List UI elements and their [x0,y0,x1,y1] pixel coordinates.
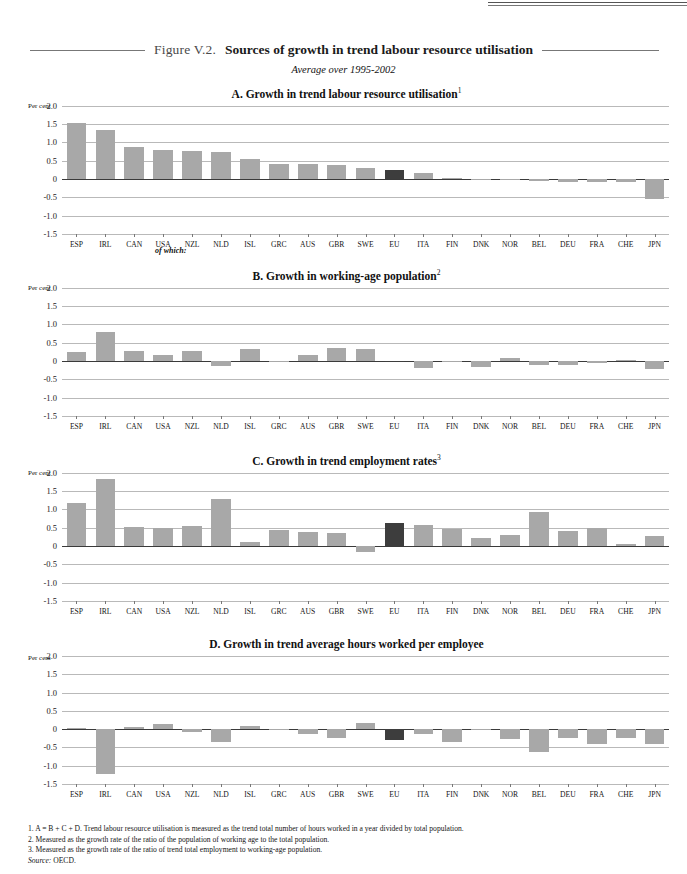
x-tick [91,601,120,605]
bar-cell [438,288,467,416]
x-label-irl: IRL [91,240,120,249]
x-tick [525,784,554,788]
y-tick-label: -0.5 [44,742,57,752]
x-tick [264,601,293,605]
bar-jpn [645,536,665,546]
x-label-che: CHE [611,422,640,431]
x-tick [120,416,149,420]
bar-cell [207,288,236,416]
x-tick [178,784,207,788]
x-label-swe: SWE [351,422,380,431]
bar-cell [467,106,496,234]
x-label-irl: IRL [91,607,120,616]
bar-grc [269,530,289,546]
bar-cell [207,106,236,234]
bar-che [616,179,636,182]
y-tick-label: 2.0 [46,468,57,478]
x-label-dnk: DNK [467,607,496,616]
x-tick [178,416,207,420]
panel-title-d: D. Growth in trend average hours worked … [0,638,687,650]
x-tick [178,234,207,238]
panel-footnote-marker: 2 [437,268,441,277]
x-label-che: CHE [611,790,640,799]
bar-cell [351,106,380,234]
x-label-usa: USA [149,422,178,431]
bar-cell [351,656,380,784]
x-label-fra: FRA [582,240,611,249]
x-label-deu: DEU [553,240,582,249]
y-tick-label: 0.5 [46,338,57,348]
footnote-3: 3. Measured as the growth rate of the ra… [28,845,663,856]
bar-cell [62,106,91,234]
x-tick [525,416,554,420]
x-tick [293,234,322,238]
y-tick-label: 0.5 [46,156,57,166]
source-label: Source: [28,856,51,865]
bar-cell [235,656,264,784]
x-tick-marks [62,234,669,238]
x-tick [149,601,178,605]
x-tick-marks [62,416,669,420]
bar-cell [322,106,351,234]
x-tick [207,784,236,788]
bar-cell [149,656,178,784]
plot-area-d: 2.01.51.00.50-0.5-1.0-1.5ESPIRLCANUSANZL… [62,656,669,784]
chart-panel-a: A. Growth in trend labour resource utili… [0,86,687,234]
bar-esp [67,503,87,546]
bar-cell [611,473,640,601]
bar-fra [587,528,607,546]
bar-cell [582,473,611,601]
bar-cell [640,106,669,234]
bar-cell [409,473,438,601]
x-label-eu: EU [380,240,409,249]
bar-group [62,106,669,234]
y-tick-label: -1.0 [44,761,57,771]
bar-cell [149,288,178,416]
source-value: OECD. [53,856,76,865]
bar-cell [91,288,120,416]
x-tick [553,416,582,420]
bar-cell [264,288,293,416]
bar-grc [269,729,289,730]
x-label-fin: FIN [438,422,467,431]
figure-title: Sources of growth in trend labour resour… [225,42,533,58]
bar-bel [529,179,549,181]
x-axis-labels: ESPIRLCANUSANZLNLDISLGRCAUSGBRSWEEUITAFI… [62,422,669,431]
x-label-che: CHE [611,240,640,249]
bar-dnk [471,538,491,546]
x-label-irl: IRL [91,422,120,431]
x-tick [264,416,293,420]
x-label-gbr: GBR [322,422,351,431]
bar-nor [500,179,520,180]
chart-panel-c: C. Growth in trend employment rates3Per … [0,453,687,601]
bar-cell [467,656,496,784]
bar-nor [500,535,520,546]
bar-cell [322,473,351,601]
x-label-irl: IRL [91,790,120,799]
x-label-nor: NOR [496,240,525,249]
bar-cell [120,473,149,601]
x-tick [467,234,496,238]
x-tick [62,784,91,788]
x-tick [467,784,496,788]
x-tick [322,601,351,605]
y-tick-label: 1.0 [46,319,57,329]
x-tick [553,234,582,238]
x-label-ita: ITA [409,422,438,431]
panel-footnote-marker: 3 [437,453,441,462]
x-label-aus: AUS [293,422,322,431]
y-tick-label: 2.0 [46,283,57,293]
x-label-grc: GRC [264,790,293,799]
bar-cell [264,106,293,234]
x-label-esp: ESP [62,240,91,249]
bar-aus [298,729,318,733]
x-label-fin: FIN [438,607,467,616]
x-tick [409,601,438,605]
bar-cell [120,656,149,784]
bar-esp [67,728,87,729]
x-tick-marks [62,601,669,605]
bar-eu [385,170,405,179]
y-tick-label: 1.5 [46,301,57,311]
x-tick [582,601,611,605]
x-label-gbr: GBR [322,240,351,249]
